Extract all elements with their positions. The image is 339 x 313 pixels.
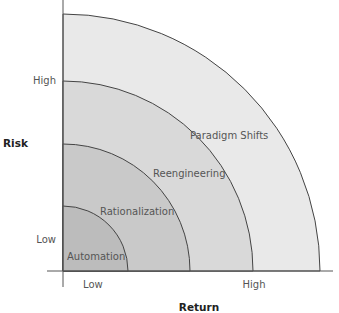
x-axis-title: Return — [179, 301, 219, 313]
x-tick-low: Low — [83, 279, 103, 290]
y-tick-high: High — [33, 75, 56, 86]
x-tick-high: High — [243, 279, 266, 290]
zone-label-rationalization: Rationalization — [100, 206, 174, 217]
zone-label-automation: Automation — [67, 251, 125, 262]
y-tick-low: Low — [36, 234, 56, 245]
y-axis-title: Risk — [3, 137, 29, 149]
zone-label-paradigm-shifts: Paradigm Shifts — [190, 130, 268, 141]
risk-return-diagram: Paradigm Shifts Reengineering Rationaliz… — [0, 0, 339, 313]
zone-label-reengineering: Reengineering — [153, 168, 226, 179]
zones — [63, 14, 320, 271]
